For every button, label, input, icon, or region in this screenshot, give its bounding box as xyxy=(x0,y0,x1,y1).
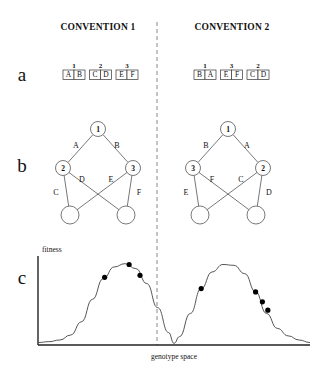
network-edge-label-D: D xyxy=(79,175,85,184)
population-dot-right-peak xyxy=(260,299,265,304)
network-node-output xyxy=(61,206,79,224)
gene-letter: F xyxy=(130,70,134,79)
network-node-label: 3 xyxy=(191,164,195,173)
network-edge-F xyxy=(127,175,132,206)
convention-2-genome: 1BA3EF2CD xyxy=(194,62,269,80)
fitness-curve xyxy=(38,264,310,344)
gene-box-number: 2 xyxy=(256,62,260,70)
network-node-output xyxy=(247,206,265,224)
convention-1-genome: 1AB2CD3EF xyxy=(63,62,138,80)
panel-c-fitness-landscape: fitnessgenotype space xyxy=(38,245,310,361)
network-edge-label-A: A xyxy=(73,141,79,150)
gene-letter: F xyxy=(235,70,239,79)
network-node-output xyxy=(191,206,209,224)
gene-box-number: 2 xyxy=(99,62,103,70)
network-edge-C xyxy=(207,172,257,209)
gene-letter: E xyxy=(224,70,229,79)
population-dot-left-peak xyxy=(102,275,107,280)
network-edge-B xyxy=(198,135,223,163)
population-dot-left-peak xyxy=(127,262,132,267)
gene-letter: D xyxy=(103,70,109,79)
panel-b-networks: 123ABCDEF132BAEFCD xyxy=(53,122,272,225)
gene-letter: C xyxy=(92,70,97,79)
panel-letter-a: a xyxy=(18,64,27,85)
network-edge-E xyxy=(194,175,199,206)
panel-letter-b: b xyxy=(17,155,27,176)
network-edge-label-F: F xyxy=(137,188,142,197)
gene-letter: E xyxy=(119,70,124,79)
network-node-label: 1 xyxy=(96,125,100,134)
population-dot-left-peak xyxy=(137,273,142,278)
network-node-label: 1 xyxy=(226,125,230,134)
panel-letters: abc xyxy=(17,64,27,288)
convention-1-network: 123ABCDEF xyxy=(53,122,141,225)
gene-box-number: 1 xyxy=(72,62,76,70)
gene-letter: A xyxy=(208,70,214,79)
genotype-space-axis-label: genotype space xyxy=(151,352,198,361)
fitness-axis-label: fitness xyxy=(42,245,62,254)
network-node-label: 2 xyxy=(261,164,265,173)
network-edge-A xyxy=(68,135,93,163)
panel-a-genomes: 1AB2CD3EF1BA3EF2CD xyxy=(63,62,269,80)
population-dot-right-peak xyxy=(265,308,270,313)
gene-letter: A xyxy=(66,70,72,79)
gene-letter: B xyxy=(77,70,82,79)
network-edge-label-C: C xyxy=(238,175,243,184)
network-edge-label-A: A xyxy=(244,141,250,150)
convention-header-2: CONVENTION 2 xyxy=(195,22,270,32)
network-edge-label-D: D xyxy=(266,188,272,197)
population-dot-right-peak xyxy=(253,289,258,294)
gene-letter: C xyxy=(250,70,255,79)
evolutionary-convention-figure: CONVENTION 1CONVENTION 2 abc 1AB2CD3EF1B… xyxy=(0,0,319,377)
network-node-label: 2 xyxy=(61,164,65,173)
network-edge-label-E: E xyxy=(184,188,189,197)
network-edge-C xyxy=(64,175,69,206)
network-edge-label-C: C xyxy=(53,188,58,197)
network-edge-label-F: F xyxy=(210,175,215,184)
network-node-output xyxy=(117,206,135,224)
panel-letter-c: c xyxy=(18,267,26,288)
gene-box-number: 3 xyxy=(125,62,129,70)
network-edge-label-E: E xyxy=(109,175,114,184)
population-dot-right-peak xyxy=(199,286,204,291)
gene-letter: B xyxy=(197,70,202,79)
network-edge-label-B: B xyxy=(203,141,208,150)
convention-2-network: 132BAEFCD xyxy=(184,122,273,225)
gene-box-number: 3 xyxy=(230,62,234,70)
network-node-label: 3 xyxy=(131,164,135,173)
convention-headers: CONVENTION 1CONVENTION 2 xyxy=(61,22,270,32)
convention-header-1: CONVENTION 1 xyxy=(61,22,136,32)
network-edge-D xyxy=(257,175,262,206)
gene-box-number: 1 xyxy=(203,62,207,70)
gene-letter: D xyxy=(261,70,267,79)
network-edge-label-B: B xyxy=(114,141,119,150)
